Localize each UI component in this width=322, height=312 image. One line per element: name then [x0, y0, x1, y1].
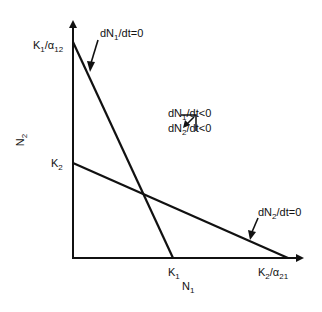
n2-isocline-pointer	[252, 218, 258, 232]
svg-text:N2: N2	[14, 133, 29, 146]
n2-pointer-arrowhead-icon	[248, 230, 256, 240]
y-intercept-k2: K2	[51, 157, 63, 172]
x-intercept-k2-alpha21: K2/α21	[258, 266, 289, 281]
y-intercept-k1-alpha12: K1/α12	[33, 39, 64, 54]
n2-isocline	[73, 163, 288, 258]
y-axis-label: N2	[14, 133, 29, 146]
n1-isocline	[73, 42, 173, 258]
n2-isocline-label: dN2/dt=0	[258, 206, 301, 221]
n1-isocline-label: dN1/dt=0	[100, 27, 143, 42]
x-intercept-k1: K1	[168, 266, 180, 281]
region-dn2-label: dN2/dt<0	[168, 122, 211, 137]
region-dn1-label: dN1/dt<0	[168, 107, 211, 122]
x-axis-label: N1	[182, 280, 195, 295]
n1-pointer-arrowhead-icon	[87, 61, 95, 72]
n1-isocline-pointer	[91, 40, 98, 63]
isocline-diagram: N2 N1 K1/α12 K2 K1 K2/α21 dN1/dt=0 dN2/d…	[0, 0, 322, 312]
